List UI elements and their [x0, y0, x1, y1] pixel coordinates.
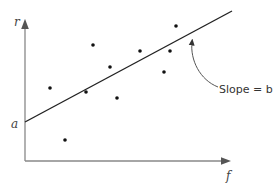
data-point: [108, 65, 112, 69]
data-points: [48, 24, 178, 142]
slope-arrow: [192, 42, 218, 87]
data-point: [63, 138, 67, 142]
data-point: [168, 49, 172, 53]
data-point: [162, 70, 166, 74]
intercept-label: a: [11, 117, 18, 131]
scatter-diagram: r f a Slope = b: [0, 0, 276, 185]
regression-line: [25, 11, 232, 122]
data-point: [91, 43, 95, 47]
data-point: [48, 86, 52, 90]
y-axis-label: r: [14, 15, 21, 29]
x-axis-label: f: [225, 169, 233, 183]
data-point: [174, 24, 178, 28]
slope-label: Slope = b: [219, 83, 273, 96]
data-point: [138, 49, 142, 53]
data-point: [84, 90, 88, 94]
data-point: [115, 96, 119, 100]
